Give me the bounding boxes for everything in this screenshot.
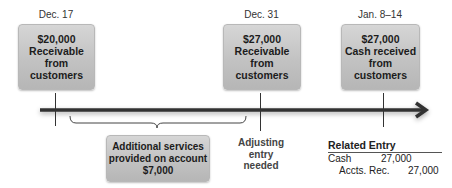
services-label: Additional services <box>112 141 204 153</box>
services-amount: $7,000 <box>143 165 174 177</box>
adjusting-line: needed <box>234 160 288 172</box>
additional-services-box: Additional services provided on account … <box>106 135 210 182</box>
adjusting-line: Adjusting <box>234 137 288 149</box>
related-entry-title: Related Entry <box>328 139 442 153</box>
adjusting-entry-note: Adjusting entry needed <box>234 137 288 172</box>
services-label: provided on account <box>109 153 207 165</box>
related-entry: Related Entry Cash 27,000 Accts. Rec. 27… <box>328 139 442 177</box>
credit-account: Accts. Rec. <box>339 165 390 177</box>
brace <box>70 116 246 128</box>
debit-row: Cash 27,000 <box>328 153 442 165</box>
debit-amount: 27,000 <box>381 153 412 165</box>
credit-amount: 27,000 <box>408 165 439 177</box>
debit-account: Cash <box>328 153 351 165</box>
credit-row: Accts. Rec. 27,000 <box>328 165 442 177</box>
adjusting-line: entry <box>234 149 288 161</box>
